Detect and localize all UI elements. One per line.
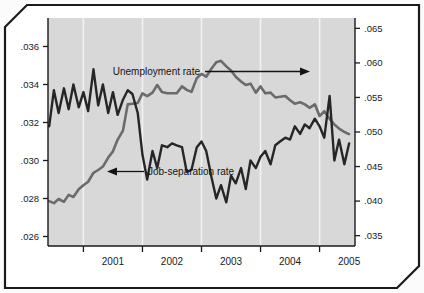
x-tick-label-2004: 2004 bbox=[279, 256, 302, 267]
chart-canvas: .026.028.030.032.034.036 .035.040.045.05… bbox=[0, 0, 424, 293]
right-tick-label-.045: .045 bbox=[364, 161, 383, 172]
right-tick-label-.050: .050 bbox=[364, 126, 383, 137]
left-tick-label-.036: .036 bbox=[21, 41, 40, 52]
left-axis-ticks: .026.028.030.032.034.036 bbox=[21, 41, 49, 242]
right-axis-ticks: .035.040.045.050.055.060.065 bbox=[355, 23, 383, 241]
right-tick-label-.035: .035 bbox=[364, 230, 383, 241]
right-tick-label-.040: .040 bbox=[364, 195, 383, 206]
job-separation-rate-label: Job-separation rate bbox=[148, 166, 235, 177]
left-tick-label-.026: .026 bbox=[21, 231, 40, 242]
right-tick-label-.055: .055 bbox=[364, 92, 383, 103]
x-tick-label-2005: 2005 bbox=[338, 256, 361, 267]
left-tick-label-.032: .032 bbox=[21, 117, 40, 128]
x-axis-ticks: 20012002200320042005 bbox=[83, 246, 360, 267]
x-tick-label-2003: 2003 bbox=[220, 256, 243, 267]
x-tick-label-2002: 2002 bbox=[161, 256, 184, 267]
left-tick-label-.034: .034 bbox=[21, 79, 40, 90]
right-tick-label-.065: .065 bbox=[364, 23, 383, 34]
left-tick-label-.028: .028 bbox=[21, 193, 40, 204]
left-tick-label-.030: .030 bbox=[21, 155, 40, 166]
unemployment-rate-label: Unemployment rate bbox=[113, 66, 201, 77]
x-tick-label-2001: 2001 bbox=[102, 256, 125, 267]
right-tick-label-.060: .060 bbox=[364, 57, 383, 68]
figure-container: .026.028.030.032.034.036 .035.040.045.05… bbox=[0, 0, 424, 293]
